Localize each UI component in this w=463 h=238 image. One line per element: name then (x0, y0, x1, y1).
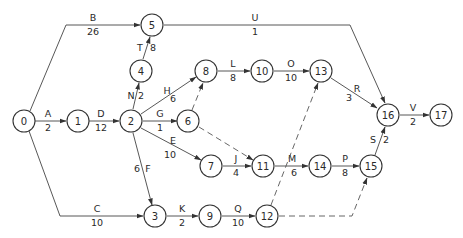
svg-text:17: 17 (435, 110, 448, 121)
node-13: 13 (310, 60, 332, 82)
node-2: 2 (120, 110, 142, 132)
activity-c-duration: 10 (91, 217, 103, 228)
activity-p-name: P (342, 153, 348, 164)
activity-g-name: G (156, 108, 163, 119)
node-8: 8 (195, 60, 217, 82)
activity-e-duration: 10 (164, 149, 176, 160)
node-12: 12 (256, 205, 278, 227)
svg-text:9: 9 (207, 211, 213, 222)
activity-k-duration: 2 (179, 217, 185, 228)
activity-q-name: Q (234, 203, 241, 214)
activity-g-duration: 1 (157, 122, 163, 133)
svg-text:7: 7 (208, 161, 214, 172)
node-14: 14 (309, 155, 331, 177)
activity-f-name: F (145, 163, 150, 174)
activity-k-name: K (179, 203, 186, 214)
activity-m-name: M (288, 153, 296, 164)
activity-t-arrow (143, 37, 150, 59)
svg-text:1: 1 (75, 116, 81, 127)
activity-l-duration: 8 (230, 72, 236, 83)
activity-m-duration: 6 (291, 167, 297, 178)
node-7: 7 (200, 155, 222, 177)
activity-r-duration: 3 (346, 92, 352, 103)
activity-q-duration: 10 (232, 217, 244, 228)
activity-j-name: J (234, 153, 238, 164)
activity-o-name: O (287, 58, 294, 69)
activity-a-duration: 2 (45, 122, 51, 133)
node-5: 5 (141, 14, 163, 36)
svg-text:11: 11 (257, 161, 270, 172)
dummy-12-15-arrow (279, 178, 367, 216)
svg-text:13: 13 (315, 66, 328, 77)
dummy-edges (192, 83, 367, 216)
svg-text:3: 3 (152, 211, 158, 222)
svg-text:12: 12 (261, 211, 274, 222)
activity-v-duration: 2 (410, 116, 416, 127)
activity-u-duration: 1 (252, 26, 258, 37)
node-9: 9 (199, 205, 221, 227)
event-nodes: 0 1 2 3 4 5 6 7 8 9 10 11 12 13 14 15 16… (13, 14, 452, 227)
activity-c-name: C (94, 203, 101, 214)
node-15: 15 (360, 155, 382, 177)
activity-h-duration: 6 (170, 93, 176, 104)
svg-text:0: 0 (21, 116, 27, 127)
node-3: 3 (144, 205, 166, 227)
activity-n-duration: 2 (138, 90, 144, 101)
activity-b-duration: 26 (87, 26, 99, 37)
activity-u-name: U (252, 12, 259, 23)
activity-o-duration: 10 (285, 72, 297, 83)
activity-c-arrow (29, 131, 143, 216)
dummy-6-11-arrow (199, 127, 253, 160)
svg-text:5: 5 (149, 20, 155, 31)
activity-t-duration: 8 (150, 42, 156, 53)
node-10: 10 (251, 60, 273, 82)
activity-b-arrow (30, 25, 140, 111)
svg-text:6: 6 (185, 116, 191, 127)
node-17: 17 (430, 104, 452, 126)
activity-e-name: E (170, 135, 176, 146)
activity-s-name: S (370, 134, 376, 145)
node-1: 1 (67, 110, 89, 132)
svg-text:8: 8 (203, 66, 209, 77)
activity-a-name: A (45, 108, 52, 119)
svg-text:14: 14 (314, 161, 327, 172)
activity-d-duration: 12 (95, 122, 107, 133)
svg-text:10: 10 (256, 66, 269, 77)
activity-l-name: L (230, 58, 236, 69)
node-16: 16 (377, 104, 399, 126)
svg-text:16: 16 (382, 110, 395, 121)
dummy-12-13-arrow (271, 83, 318, 205)
svg-text:2: 2 (128, 116, 134, 127)
activity-f-duration: 6 (134, 163, 140, 174)
activity-b-name: B (90, 12, 97, 23)
node-0: 0 (13, 110, 35, 132)
svg-text:4: 4 (138, 66, 144, 77)
activity-j-duration: 4 (233, 167, 239, 178)
dummy-6-8-arrow (192, 83, 203, 110)
svg-text:15: 15 (365, 161, 378, 172)
activity-v-name: V (410, 102, 417, 113)
node-4: 4 (130, 60, 152, 82)
activity-p-duration: 8 (342, 167, 348, 178)
node-11: 11 (252, 155, 274, 177)
activity-t-name: T (136, 42, 143, 53)
activity-n-name: N (127, 90, 134, 101)
activity-d-name: D (97, 108, 104, 119)
activity-r-name: R (354, 83, 361, 94)
node-6: 6 (177, 110, 199, 132)
activity-s-duration: 2 (383, 134, 389, 145)
network-diagram: A 2 B 26 C 10 D 12 E 10 6 F G 1 H 6 N 2 (0, 0, 463, 238)
